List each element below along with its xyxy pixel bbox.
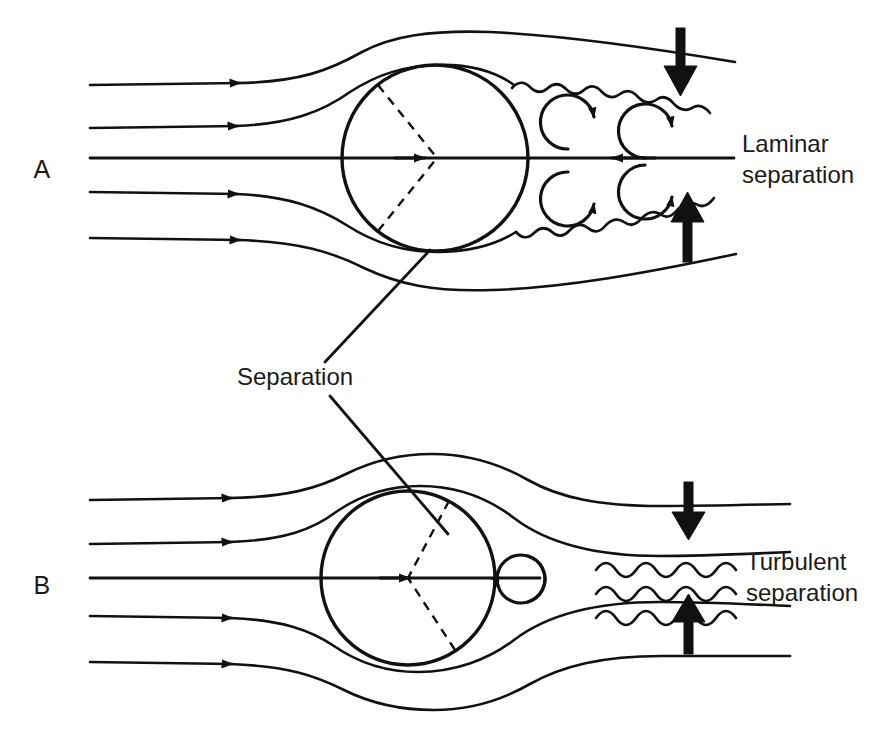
turbulent-separation-label-line2: separation: [746, 579, 858, 606]
figure-root: A: [0, 0, 881, 743]
laminar-separation-label-line2: separation: [742, 161, 854, 188]
laminar-separation-label-line1: Laminar: [742, 130, 829, 157]
panel-a-letter: A: [33, 155, 50, 183]
separation-label: Separation: [237, 363, 353, 390]
flow-separation-diagram: A: [0, 0, 881, 743]
figure-background: [0, 0, 881, 743]
panel-b-letter: B: [33, 571, 50, 599]
turbulent-separation-label-line1: Turbulent: [746, 548, 847, 575]
